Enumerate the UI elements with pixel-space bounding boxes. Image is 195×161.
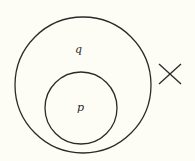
- outer-circle-q: [15, 17, 151, 153]
- venn-svg: [0, 0, 195, 161]
- outer-set-label: q: [75, 43, 82, 56]
- inner-set-label: p: [77, 101, 84, 114]
- venn-diagram: q p: [0, 0, 195, 161]
- cross-icon: [159, 64, 181, 84]
